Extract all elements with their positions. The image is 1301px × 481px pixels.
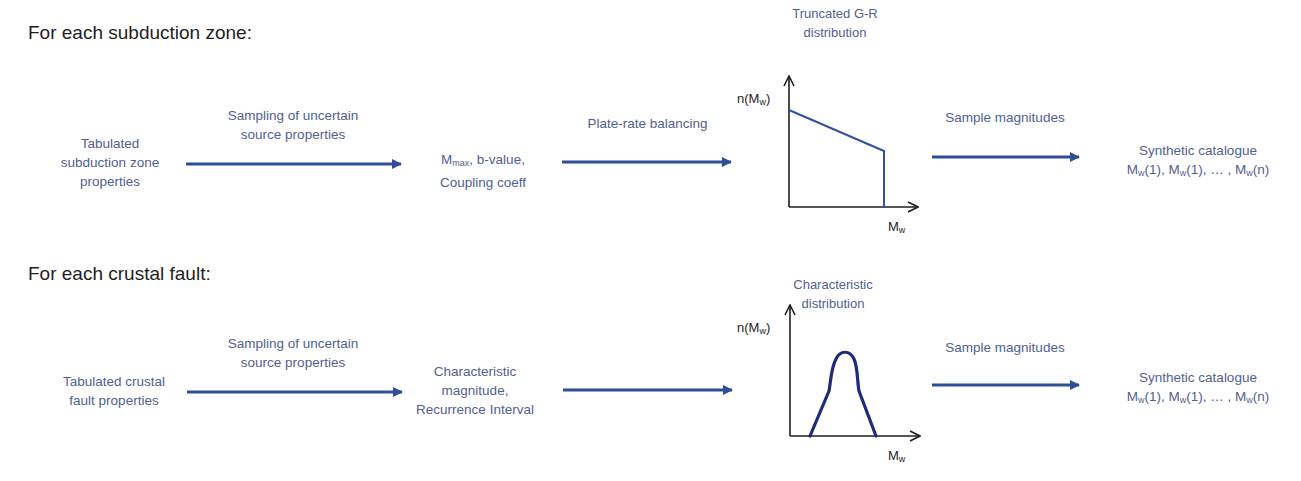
input-line: Tabulated xyxy=(40,134,180,153)
input-line: fault properties xyxy=(44,391,184,410)
plate-rate-balancing-label: Plate-rate balancing xyxy=(560,114,735,133)
char-x-axis-label: Mw xyxy=(888,448,905,464)
input-line: properties xyxy=(40,172,180,191)
output-title: Synthetic catalogue xyxy=(1098,141,1298,160)
gr-distribution-title: Truncated G-R distribution xyxy=(790,4,880,42)
subduction-params-node: Mmax, b-value, Coupling coeff xyxy=(408,150,558,192)
output-series: Mw(1), Mw(1), … , Mw(n) xyxy=(1098,387,1298,410)
title-line: Truncated G-R xyxy=(790,4,880,23)
subduction-input-node: Tabulated subduction zone properties xyxy=(40,134,180,191)
subduction-sample-magnitudes-label: Sample magnitudes xyxy=(925,108,1085,127)
gr-chart xyxy=(789,76,918,207)
output-title: Synthetic catalogue xyxy=(1098,368,1298,387)
input-line: Tabulated crustal xyxy=(44,372,184,391)
params-line-2: Coupling coeff xyxy=(408,173,558,192)
char-y-axis-label: n(Mw) xyxy=(737,320,770,336)
gr-distribution-line xyxy=(789,110,884,207)
crustal-sampling-label: Sampling of uncertain source properties xyxy=(188,334,398,372)
label-line: Sampling of uncertain xyxy=(188,334,398,353)
characteristic-distribution-title: Characteristic distribution xyxy=(788,275,878,313)
params-line: Recurrence Interval xyxy=(400,400,550,419)
crustal-params-node: Characteristic magnitude, Recurrence Int… xyxy=(400,362,550,419)
label-line: source properties xyxy=(188,353,398,372)
crustal-heading: For each crustal fault: xyxy=(28,263,211,285)
subduction-sampling-label: Sampling of uncertain source properties xyxy=(188,106,398,144)
label-line: source properties xyxy=(188,125,398,144)
characteristic-curve xyxy=(810,352,876,436)
gr-y-axis-label: n(Mw) xyxy=(737,91,770,107)
params-line: Characteristic xyxy=(400,362,550,381)
subduction-output-node: Synthetic catalogue Mw(1), Mw(1), … , Mw… xyxy=(1098,141,1298,183)
params-line-1: Mmax, b-value, xyxy=(408,150,558,173)
subduction-heading: For each subduction zone: xyxy=(28,22,252,44)
crustal-output-node: Synthetic catalogue Mw(1), Mw(1), … , Mw… xyxy=(1098,368,1298,410)
title-line: Characteristic xyxy=(788,275,878,294)
characteristic-chart xyxy=(790,305,920,436)
title-line: distribution xyxy=(788,294,878,313)
input-line: subduction zone xyxy=(40,153,180,172)
crustal-sample-magnitudes-label: Sample magnitudes xyxy=(925,338,1085,357)
label-line: Sampling of uncertain xyxy=(188,106,398,125)
crustal-input-node: Tabulated crustal fault properties xyxy=(44,372,184,410)
output-series: Mw(1), Mw(1), … , Mw(n) xyxy=(1098,160,1298,183)
params-line: magnitude, xyxy=(400,381,550,400)
title-line: distribution xyxy=(790,23,880,42)
gr-x-axis-label: Mw xyxy=(888,219,905,235)
